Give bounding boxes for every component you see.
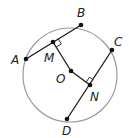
- label-a: A: [10, 53, 19, 67]
- circle-diagram: A B C D M O N: [0, 0, 129, 138]
- label-d: D: [62, 124, 71, 138]
- point-n: [88, 83, 93, 88]
- point-o: [69, 69, 74, 74]
- point-a: [24, 57, 29, 62]
- label-n: N: [90, 90, 99, 104]
- segment-mo: [53, 42, 71, 71]
- point-m: [51, 40, 56, 45]
- circle: [23, 28, 117, 122]
- segment-on: [71, 71, 90, 85]
- label-m: M: [44, 51, 55, 65]
- point-b: [79, 23, 84, 28]
- label-b: B: [77, 6, 85, 20]
- point-d: [65, 117, 70, 122]
- label-o: O: [56, 72, 65, 86]
- label-c: C: [114, 35, 123, 49]
